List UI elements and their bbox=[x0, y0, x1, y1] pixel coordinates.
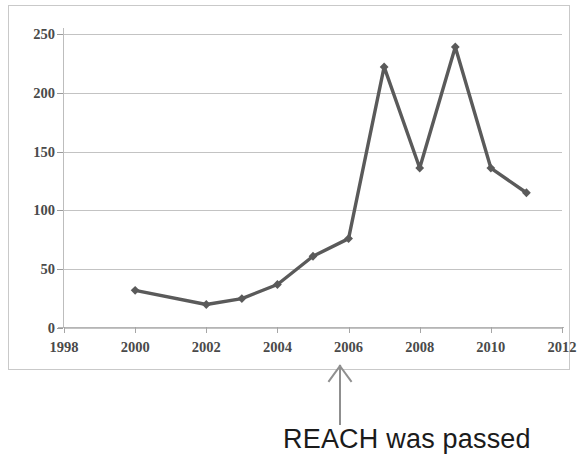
x-tick-label: 2006 bbox=[334, 339, 363, 356]
chart-frame: 050100150200250 199820002002200420062008… bbox=[8, 5, 570, 370]
y-tick-label: 0 bbox=[48, 320, 55, 337]
annotation-label: REACH was passed bbox=[283, 424, 531, 455]
x-tick-label: 2002 bbox=[192, 339, 221, 356]
x-tick-mark bbox=[562, 327, 563, 333]
x-tick-label: 2010 bbox=[476, 339, 505, 356]
x-tick-label: 2004 bbox=[263, 339, 292, 356]
y-tick-mark bbox=[57, 93, 63, 94]
y-tick-mark bbox=[57, 328, 63, 329]
y-tick-label: 250 bbox=[33, 26, 55, 43]
series-line bbox=[135, 47, 526, 305]
y-tick-label: 150 bbox=[33, 143, 55, 160]
y-tick-mark bbox=[57, 34, 63, 35]
x-tick-label: 2000 bbox=[121, 339, 150, 356]
x-tick-label: 1998 bbox=[50, 339, 79, 356]
data-point-marker bbox=[131, 286, 140, 295]
x-tick-label: 2008 bbox=[405, 339, 434, 356]
data-point-marker bbox=[380, 63, 389, 72]
data-point-marker bbox=[451, 43, 460, 52]
y-gridline bbox=[64, 328, 562, 329]
data-point-marker bbox=[202, 300, 211, 309]
x-tick-label: 2012 bbox=[548, 339, 577, 356]
data-point-marker bbox=[237, 294, 246, 303]
y-tick-label: 50 bbox=[41, 261, 56, 278]
y-tick-label: 100 bbox=[33, 202, 55, 219]
y-tick-label: 200 bbox=[33, 84, 55, 101]
y-tick-mark bbox=[57, 152, 63, 153]
plot-area: 050100150200250 199820002002200420062008… bbox=[64, 34, 562, 328]
data-series-line bbox=[64, 34, 562, 328]
y-tick-mark bbox=[57, 210, 63, 211]
y-tick-mark bbox=[57, 269, 63, 270]
data-point-marker bbox=[415, 164, 424, 173]
